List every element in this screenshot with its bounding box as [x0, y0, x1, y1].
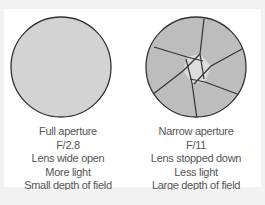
- full-aperture-disc-icon: [4, 9, 132, 127]
- caption-title: Narrow aperture: [132, 125, 260, 139]
- caption-title: Full aperture: [4, 125, 132, 139]
- diagram-panel: Full aperture F/2.8 Lens wide open More …: [4, 9, 261, 187]
- caption-fstop: F/11: [132, 139, 260, 153]
- caption-lens-state: Lens wide open: [4, 152, 132, 166]
- narrow-aperture-caption: Narrow aperture F/11 Lens stopped down L…: [132, 125, 260, 193]
- full-aperture-caption: Full aperture F/2.8 Lens wide open More …: [4, 125, 132, 193]
- narrow-aperture-figure: Narrow aperture F/11 Lens stopped down L…: [132, 9, 260, 187]
- footer-strip: [0, 190, 265, 205]
- caption-lens-state: Lens stopped down: [132, 152, 260, 166]
- caption-light: More light: [4, 166, 132, 180]
- caption-light: Less light: [132, 166, 260, 180]
- caption-fstop: F/2.8: [4, 139, 132, 153]
- aperture-blades-icon: [132, 9, 260, 127]
- full-aperture-figure: Full aperture F/2.8 Lens wide open More …: [4, 9, 132, 187]
